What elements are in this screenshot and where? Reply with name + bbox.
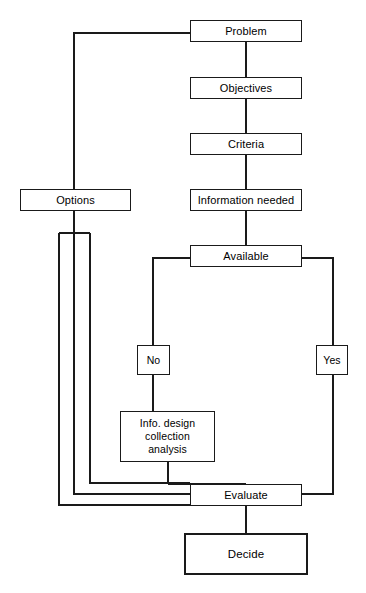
edge-available-to-no (153, 258, 190, 345)
node-info-design-line-3: analysis (148, 443, 187, 456)
node-yes[interactable]: Yes (316, 345, 348, 375)
node-evaluate-label: Evaluate (224, 489, 268, 502)
node-info-design-line-1: Info. design (140, 417, 196, 430)
node-info-design-collection-analysis[interactable]: Info. design collection analysis (120, 411, 215, 462)
node-options-label: Options (56, 194, 95, 207)
edge-available-to-yes (302, 258, 333, 345)
node-info-design-line-2: collection (145, 430, 190, 443)
node-options[interactable]: Options (20, 189, 131, 211)
node-objectives[interactable]: Objectives (190, 77, 302, 99)
node-decide[interactable]: Decide (184, 533, 308, 575)
node-information-needed[interactable]: Information needed (190, 189, 302, 211)
node-available[interactable]: Available (190, 245, 302, 267)
edge-problem-to-options (74, 33, 190, 189)
edge-yes-to-evaluate (302, 375, 333, 494)
node-no-label: No (147, 354, 161, 367)
edge-evaluate-return-outer (59, 233, 190, 505)
connector-lines (0, 0, 366, 593)
node-available-label: Available (223, 250, 268, 263)
node-problem[interactable]: Problem (190, 20, 302, 42)
node-information-needed-label: Information needed (198, 194, 295, 207)
node-objectives-label: Objectives (220, 82, 272, 95)
node-evaluate[interactable]: Evaluate (190, 484, 302, 506)
node-problem-label: Problem (225, 25, 267, 38)
node-criteria[interactable]: Criteria (190, 133, 302, 155)
flowchart-diagram: Problem Objectives Criteria Information … (0, 0, 366, 593)
node-decide-label: Decide (228, 548, 264, 561)
node-no[interactable]: No (137, 345, 170, 375)
node-yes-label: Yes (323, 354, 340, 367)
node-criteria-label: Criteria (228, 138, 264, 151)
